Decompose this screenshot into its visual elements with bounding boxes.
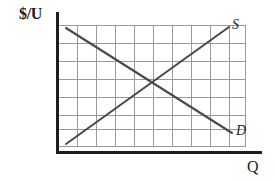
x-axis-label: Q — [247, 159, 259, 175]
supply-demand-chart: $/U Q S D — [0, 0, 275, 181]
supply-curve-label: S — [232, 18, 239, 32]
demand-curve-label: D — [236, 124, 246, 138]
y-axis-label: $/U — [19, 6, 42, 22]
